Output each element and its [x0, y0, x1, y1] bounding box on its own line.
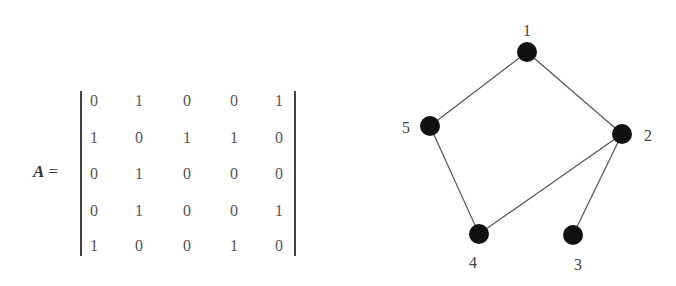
node-2 — [612, 124, 632, 144]
node-label-3: 3 — [574, 256, 582, 273]
graph-edges — [430, 52, 622, 235]
node-label-4: 4 — [469, 254, 477, 271]
edge-4-2 — [479, 134, 622, 234]
edge-2-3 — [573, 134, 622, 235]
node-4 — [469, 224, 489, 244]
node-label-1: 1 — [523, 22, 531, 39]
node-1 — [517, 42, 537, 62]
node-5 — [420, 116, 440, 136]
edge-1-5 — [430, 52, 527, 126]
edge-1-2 — [527, 52, 622, 134]
node-label-5: 5 — [402, 119, 410, 136]
graph-diagram: 12345 — [0, 0, 676, 286]
edge-5-4 — [430, 126, 479, 234]
node-3 — [563, 225, 583, 245]
node-label-2: 2 — [644, 127, 652, 144]
